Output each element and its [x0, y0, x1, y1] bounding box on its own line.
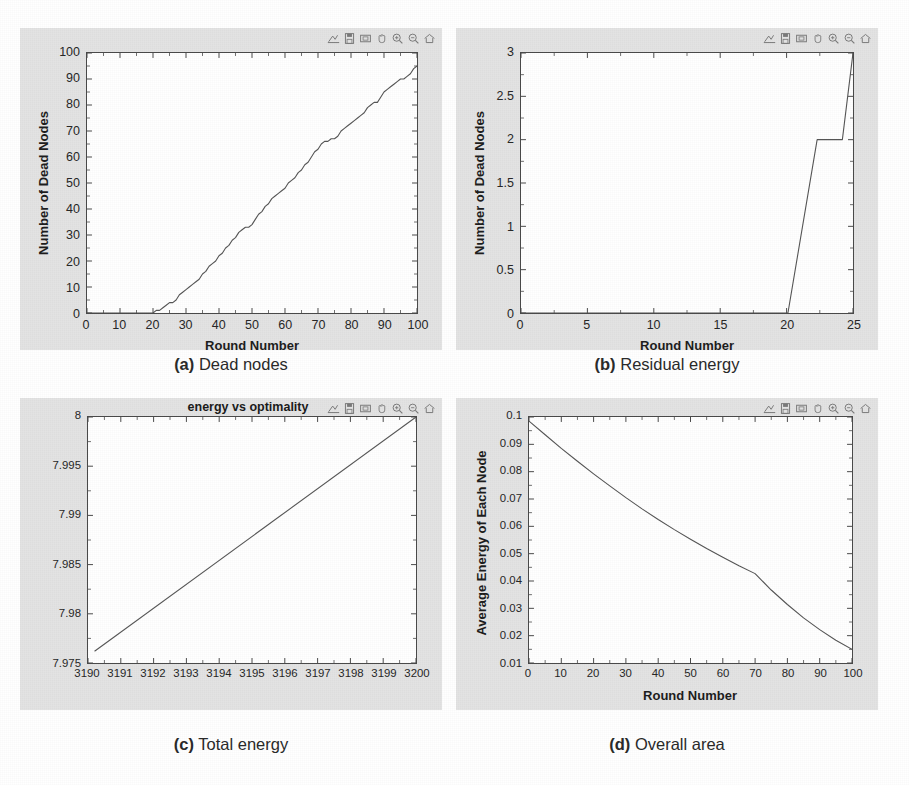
figure-panel-a: 0102030405060708090100010203040506070809… — [20, 28, 442, 350]
pan-icon[interactable] — [375, 402, 388, 415]
x-tick-label: 50 — [245, 319, 259, 332]
x-tick-label: 10 — [554, 668, 567, 679]
y-tick-label: 90 — [66, 72, 80, 85]
x-tick-label: 80 — [782, 668, 795, 679]
subplot-config-icon[interactable] — [327, 402, 340, 415]
y-tick-label: 0.07 — [500, 493, 522, 504]
x-tick-label: 0 — [83, 319, 90, 332]
zoom-out-icon[interactable] — [407, 32, 420, 45]
navigation-toolbar-b[interactable] — [763, 32, 872, 45]
y-tick-label: 0.01 — [500, 658, 522, 669]
home-icon[interactable] — [859, 32, 872, 45]
plot-area-c[interactable] — [87, 416, 417, 664]
plot-canvas — [521, 53, 853, 313]
figure-panel-d: 0.010.020.030.040.050.060.070.080.090.10… — [456, 398, 878, 710]
print-icon[interactable] — [795, 402, 808, 415]
y-tick-label: 0 — [73, 308, 80, 321]
navigation-toolbar-d[interactable] — [763, 402, 872, 415]
save-icon[interactable] — [343, 32, 356, 45]
x-tick-label: 90 — [814, 668, 827, 679]
x-tick-label: 50 — [684, 668, 697, 679]
y-tick-label: 50 — [66, 177, 80, 190]
x-axis-label-d: Round Number — [643, 688, 737, 703]
x-tick-label: 10 — [112, 319, 126, 332]
data-series-line — [95, 417, 416, 651]
caption-a: (a) Dead nodes — [20, 355, 442, 374]
zoom-in-icon[interactable] — [827, 32, 840, 45]
y-tick-label: 0.1 — [506, 410, 522, 421]
x-tick-label: 0 — [517, 319, 524, 332]
x-tick-label: 20 — [587, 668, 600, 679]
zoom-in-icon[interactable] — [827, 402, 840, 415]
data-series-line — [87, 66, 417, 313]
y-tick-label: 2 — [507, 133, 514, 146]
data-series-line — [521, 53, 853, 313]
pan-icon[interactable] — [811, 32, 824, 45]
plot-area-a[interactable] — [86, 52, 418, 314]
x-axis-label-b: Round Number — [640, 338, 734, 353]
home-icon[interactable] — [423, 32, 436, 45]
x-axis-label-a: Round Number — [205, 338, 299, 353]
y-tick-label: 0.05 — [500, 548, 522, 559]
y-tick-label: 30 — [66, 229, 80, 242]
x-tick-label: 90 — [378, 319, 392, 332]
x-tick-label: 80 — [345, 319, 359, 332]
save-icon[interactable] — [779, 402, 792, 415]
y-tick-label: 0.04 — [500, 576, 522, 587]
x-tick-label: 30 — [619, 668, 632, 679]
y-tick-label: 8 — [75, 410, 81, 421]
y-tick-label: 40 — [66, 203, 80, 216]
caption-c-tag: (c) — [174, 735, 194, 753]
caption-d: (d) Overall area — [456, 735, 878, 754]
y-tick-label: 7.99 — [59, 509, 81, 520]
caption-b-text: Residual energy — [616, 355, 740, 373]
x-tick-label: 70 — [749, 668, 762, 679]
x-tick-label: 30 — [179, 319, 193, 332]
x-tick-label: 40 — [652, 668, 665, 679]
pan-icon[interactable] — [811, 402, 824, 415]
save-icon[interactable] — [779, 32, 792, 45]
x-tick-label: 3194 — [206, 668, 231, 679]
plot-canvas — [88, 417, 416, 663]
plot-canvas — [87, 53, 417, 313]
subplot-config-icon[interactable] — [763, 402, 776, 415]
subplot-config-icon[interactable] — [763, 32, 776, 45]
x-tick-label: 3198 — [338, 668, 363, 679]
x-tick-label: 3195 — [239, 668, 264, 679]
subplot-config-icon[interactable] — [327, 32, 340, 45]
y-axis-label-a: Number of Dead Nodes — [36, 111, 51, 255]
home-icon[interactable] — [423, 402, 436, 415]
y-tick-label: 10 — [66, 282, 80, 295]
y-tick-label: 1 — [507, 220, 514, 233]
navigation-toolbar-a[interactable] — [327, 32, 436, 45]
print-icon[interactable] — [795, 32, 808, 45]
save-icon[interactable] — [343, 402, 356, 415]
zoom-out-icon[interactable] — [407, 402, 420, 415]
plot-title-c: energy vs optimality — [188, 400, 309, 414]
x-tick-label: 3192 — [140, 668, 165, 679]
x-tick-label: 3190 — [74, 668, 99, 679]
zoom-out-icon[interactable] — [843, 402, 856, 415]
zoom-in-icon[interactable] — [391, 402, 404, 415]
print-icon[interactable] — [359, 402, 372, 415]
figure-sheet: 0102030405060708090100010203040506070809… — [0, 0, 909, 785]
pan-icon[interactable] — [375, 32, 388, 45]
y-tick-label: 7.995 — [52, 460, 81, 471]
y-tick-label: 1.5 — [497, 177, 514, 190]
home-icon[interactable] — [859, 402, 872, 415]
plot-area-d[interactable] — [528, 416, 853, 664]
y-tick-label: 0.5 — [497, 264, 514, 277]
plot-area-b[interactable] — [520, 52, 854, 314]
x-tick-label: 25 — [847, 319, 861, 332]
y-tick-label: 70 — [66, 124, 80, 137]
caption-c: (c) Total energy — [20, 735, 442, 754]
y-axis-label-d: Average Energy of Each Node — [474, 450, 489, 635]
zoom-out-icon[interactable] — [843, 32, 856, 45]
data-series-line — [529, 421, 852, 649]
x-tick-label: 100 — [408, 319, 429, 332]
x-tick-label: 3197 — [305, 668, 330, 679]
print-icon[interactable] — [359, 32, 372, 45]
zoom-in-icon[interactable] — [391, 32, 404, 45]
caption-c-text: Total energy — [194, 735, 288, 753]
navigation-toolbar-c[interactable] — [327, 402, 436, 415]
